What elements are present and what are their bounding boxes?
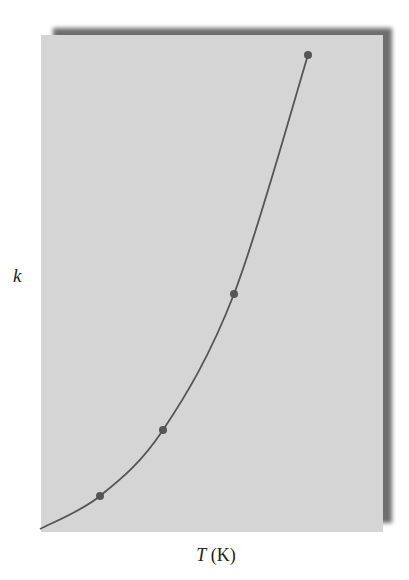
x-axis-unit: (K)	[211, 545, 236, 565]
x-axis-variable: T	[196, 545, 206, 565]
data-point	[96, 492, 104, 500]
data-point	[230, 290, 238, 298]
data-point	[304, 51, 312, 59]
y-axis-label: k	[13, 265, 21, 287]
k-vs-T-curve	[40, 55, 308, 529]
data-point	[159, 426, 167, 434]
chart-svg	[0, 0, 409, 580]
data-points	[96, 51, 312, 500]
x-axis-label: T (K)	[0, 545, 409, 566]
